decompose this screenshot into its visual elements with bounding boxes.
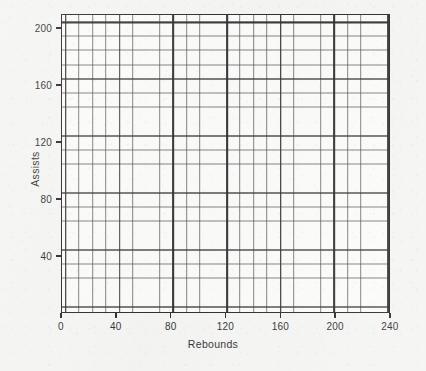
x-tick-mark: [60, 313, 62, 318]
x-tick-mark: [115, 313, 117, 318]
x-tick-label: 40: [110, 321, 122, 332]
chart-figure: 04080120160200240 4080120160200 Rebounds…: [0, 0, 426, 371]
plot-frame: [61, 14, 390, 313]
y-tick-mark: [56, 84, 61, 86]
x-tick-label: 0: [58, 321, 64, 332]
y-tick-label: 120: [13, 137, 52, 148]
y-tick-mark: [56, 255, 61, 257]
x-tick-mark: [170, 313, 172, 318]
x-tick-mark: [280, 313, 282, 318]
x-axis-title: Rebounds: [0, 338, 426, 350]
x-tick-label: 240: [381, 321, 398, 332]
y-tick-label: 200: [13, 23, 52, 34]
y-tick-mark: [56, 198, 61, 200]
x-tick-mark: [389, 313, 391, 318]
y-tick-label: 80: [13, 194, 52, 205]
x-tick-mark: [334, 313, 336, 318]
plot-area: [61, 14, 390, 313]
x-tick-label: 200: [327, 321, 344, 332]
x-tick-label: 160: [272, 321, 289, 332]
y-tick-label: 40: [13, 251, 52, 262]
y-tick-mark: [56, 27, 61, 29]
y-axis-title: Assists: [29, 151, 41, 186]
y-tick-mark: [56, 141, 61, 143]
x-tick-label: 120: [217, 321, 234, 332]
x-tick-label: 80: [165, 321, 177, 332]
y-tick-label: 160: [13, 80, 52, 91]
x-tick-mark: [225, 313, 227, 318]
